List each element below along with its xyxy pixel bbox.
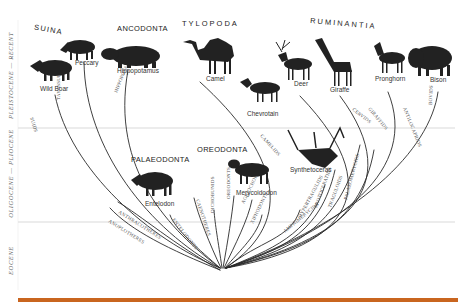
branch-label-antilocaprids: ANTILOCAPRIDS [402,107,422,148]
branch-line-amphimerycids [226,210,300,268]
branch-label-dichobunids: DICHOBUNIDS [210,176,215,213]
animal-label-chevrotain: Chevrotain [247,110,278,117]
bottom-accent-bar [18,298,458,302]
branch-line-dichobunids [214,210,222,268]
peccary-silhouette [60,40,95,60]
branch-label-suids: SUIDS [29,117,39,133]
branch-label-xiphodonts: XIPHODONTS [249,192,268,225]
branch-label-palaeomerycids: PALAEOMERYCIDS [343,153,360,200]
animal-label-deer: Deer [294,80,308,87]
group-label-tylopoda: TYLOPODA [182,19,239,28]
animal-label-pronghorn: Pronghorn [375,75,405,82]
branch-label-camelids: CAMELIDS [259,133,281,157]
wild-boar-silhouette [30,60,72,81]
giraffe-silhouette [315,38,352,86]
animal-label-peccary: Peccary [75,59,98,66]
animal-label-giraffe: Giraffe [330,86,349,93]
animal-label-hippopotamus: Hippopotamus [117,67,159,74]
entelodon-silhouette [131,172,173,196]
chevrotain-silhouette [240,78,280,102]
animal-label-bison: Bison [430,76,446,83]
animal-label-merycoidodon: Merycoidodon [236,189,277,196]
deer-silhouette [276,40,312,80]
pronghorn-silhouette [374,42,405,73]
animal-label-wild-boar: Wild Boar [40,85,68,92]
branch-label-anthracotheres: ANTHRACOTHERES [117,210,162,240]
group-label-ancodonta: ANCODONTA [117,24,168,33]
branch-line-agriochoeres [224,200,252,268]
branch-label-bovids: BOVIDS [428,85,434,105]
branch-label-oreodonts: OREODONTS [226,167,231,199]
synthetoceras-silhouette [288,128,344,168]
animal-label-entelodon: Entelodon [145,200,174,207]
bison-silhouette [408,46,452,76]
camel-silhouette [183,38,234,74]
branch-line-tayassuids [84,62,220,268]
hippopotamus-silhouette [101,46,160,68]
group-label-oreodonta: OREODONTA [197,145,247,154]
animal-label-synthetoceras: Synthetoceras [290,166,332,173]
branch-line-oreodonts [223,196,234,268]
artiodactyl-phylogeny-diagram: PLEISTOCENE — RECENT OLIGOCENE — PLIOCEN… [0,0,468,305]
animal-label-camel: Camel [206,75,225,82]
group-label-palaeodonta: PALAEODONTA [131,155,189,164]
